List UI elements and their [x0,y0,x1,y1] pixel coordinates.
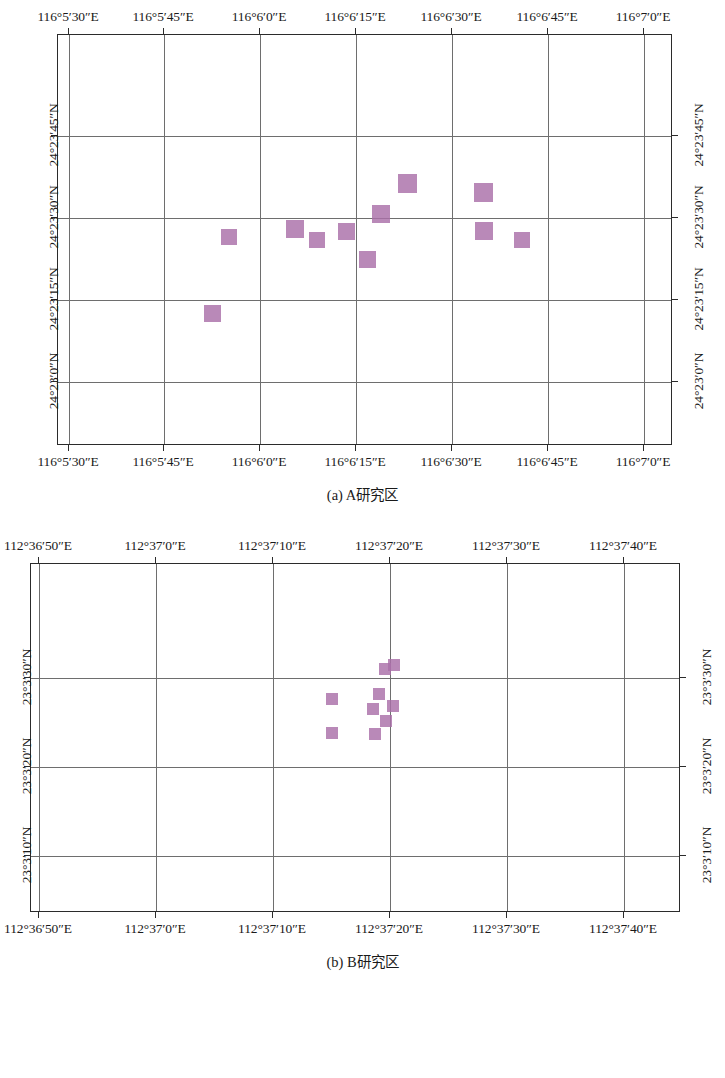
x-axis-label-bottom: 112°37′40″E [589,921,657,937]
y-axis-label-right: 23°3′30″N [699,649,715,706]
x-axis-label-bottom: 116°5′45″E [132,454,193,470]
y-tick-right [680,677,686,678]
caption-a-text: (a) A研究区 [327,487,398,503]
x-tick-top [451,28,452,34]
y-axis-label-right: 23°3′20″N [699,738,715,795]
gridline-vertical [39,564,40,911]
y-axis-label-right: 24°23′30″N [691,185,707,248]
gridline-horizontal [58,382,671,383]
x-tick-top [68,28,69,34]
y-tick-right [672,299,678,300]
x-axis-label-bottom: 112°37′10″E [238,921,306,937]
y-axis-label-left: 23°3′20″N [19,738,35,795]
gridline-horizontal [31,678,679,679]
x-axis-label-top: 116°6′15″E [324,9,385,25]
x-tick-top [355,28,356,34]
x-tick-top [643,28,644,34]
y-axis-label-right: 24°23′45″N [691,103,707,166]
x-tick-bottom [389,912,390,918]
x-axis-label-bottom: 116°5′30″E [37,454,98,470]
gridline-horizontal [31,856,679,857]
plot-frame-a [57,34,672,445]
x-tick-bottom [259,445,260,451]
x-axis-label-bottom: 112°36′50″E [4,921,72,937]
x-tick-bottom [547,445,548,451]
y-axis-label-right: 24°23′0″N [691,353,707,410]
x-tick-bottom [38,912,39,918]
x-tick-bottom [272,912,273,918]
x-axis-label-top: 112°37′10″E [238,538,306,554]
x-axis-label-bottom: 112°37′30″E [472,921,540,937]
x-tick-top [272,557,273,563]
x-tick-top [506,557,507,563]
x-axis-label-top: 116°6′30″E [420,9,481,25]
gridline-vertical [156,564,157,911]
data-point-marker [373,688,385,700]
y-axis-label-left: 23°3′30″N [19,649,35,706]
y-axis-label-left: 24°23′0″N [46,353,62,410]
figure-panel-a: 116°5′30″E116°5′30″E116°5′45″E116°5′45″E… [0,0,725,520]
caption-panel-a: (a) A研究区 [0,483,725,504]
data-point-marker [398,174,417,193]
y-tick-right [680,766,686,767]
gridline-vertical [507,564,508,911]
x-axis-label-top: 116°7′0″E [616,9,671,25]
data-point-marker [387,700,399,712]
x-axis-label-top: 112°36′50″E [4,538,72,554]
caption-panel-b: (b) B研究区 [0,950,725,971]
x-axis-label-bottom: 116°6′30″E [420,454,481,470]
gridline-horizontal [31,767,679,768]
gridline-horizontal [58,136,671,137]
x-tick-top [547,28,548,34]
x-axis-label-bottom: 116°6′15″E [324,454,385,470]
x-tick-bottom [355,445,356,451]
data-point-marker [309,232,325,248]
y-axis-label-right: 24°23′15″N [691,267,707,330]
data-point-marker [338,223,355,240]
x-tick-bottom [451,445,452,451]
x-tick-bottom [155,912,156,918]
x-axis-label-bottom: 112°37′20″E [355,921,423,937]
x-axis-label-top: 112°37′30″E [472,538,540,554]
data-point-marker [326,727,338,739]
data-point-marker [286,220,304,238]
y-axis-label-left: 24°23′15″N [46,267,62,330]
x-axis-label-top: 116°5′45″E [132,9,193,25]
data-point-marker [359,251,376,268]
gridline-vertical [624,564,625,911]
x-axis-label-top: 112°37′20″E [355,538,423,554]
data-point-marker [367,703,379,715]
data-point-marker [372,205,390,223]
x-tick-top [623,557,624,563]
y-axis-label-left: 23°3′10″N [19,827,35,884]
x-axis-label-top: 112°37′40″E [589,538,657,554]
data-point-marker [380,715,392,727]
y-axis-label-left: 24°23′30″N [46,185,62,248]
caption-b-text: (b) B研究区 [326,954,398,970]
x-axis-label-bottom: 116°7′0″E [616,454,671,470]
gridline-vertical [273,564,274,911]
x-axis-label-top: 116°5′30″E [37,9,98,25]
x-tick-top [163,28,164,34]
data-point-marker [221,229,237,245]
x-axis-label-top: 116°6′0″E [232,9,287,25]
y-tick-right [672,217,678,218]
data-point-marker [474,183,493,202]
gridline-horizontal [58,218,671,219]
data-point-marker [514,232,530,248]
x-tick-top [155,557,156,563]
x-axis-label-bottom: 116°6′0″E [232,454,287,470]
x-tick-bottom [506,912,507,918]
x-axis-label-bottom: 116°6′45″E [516,454,577,470]
y-tick-right [672,381,678,382]
data-point-marker [204,305,221,322]
x-tick-top [389,557,390,563]
plot-frame-b [30,563,680,912]
y-axis-label-left: 24°23′45″N [46,103,62,166]
x-axis-label-top: 116°6′45″E [516,9,577,25]
data-point-marker [388,659,400,671]
x-tick-top [38,557,39,563]
x-tick-bottom [623,912,624,918]
x-axis-label-bottom: 112°37′0″E [124,921,185,937]
y-axis-label-right: 23°3′10″N [699,827,715,884]
